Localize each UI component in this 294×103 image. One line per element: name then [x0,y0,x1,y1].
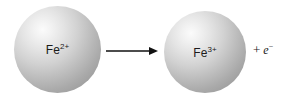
fe3-charge-superscript: 3+ [208,45,217,54]
electron-label: e− [263,43,273,56]
fe2-ion-label: Fe2+ [46,43,69,56]
plus-operator: + [253,43,260,56]
fe3-ion-label: Fe3+ [193,46,216,59]
electron-charge-superscript: − [269,42,274,51]
fe3-ion-sphere: Fe3+ [164,11,246,93]
iron-oxidation-diagram: Fe2+ Fe3+ + e− [0,0,294,103]
fe2-charge-superscript: 2+ [60,42,69,51]
electron-term: + e− [253,43,273,56]
fe2-element-symbol: Fe [46,43,60,57]
fe3-element-symbol: Fe [193,46,207,60]
reaction-arrow-icon [106,44,158,58]
fe2-ion-sphere: Fe2+ [14,6,101,93]
